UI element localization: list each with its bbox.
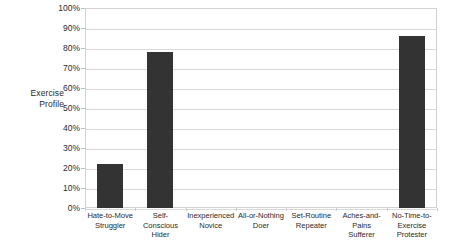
y-axis-tick-label: 50% bbox=[44, 104, 80, 113]
x-axis-category-label-line: No-Time-to- bbox=[387, 211, 437, 221]
x-axis-category-label: Hate-to-MoveStruggler bbox=[85, 211, 135, 230]
y-axis-tick-label: 40% bbox=[44, 124, 80, 133]
x-axis-category-label: InexperiencedNovice bbox=[186, 211, 236, 230]
x-axis-category-label: No-Time-to-Exercise Protester bbox=[387, 211, 437, 240]
gridline bbox=[86, 189, 436, 190]
x-axis-category-label-line: Aches-and-Pains bbox=[336, 211, 386, 230]
gridline bbox=[86, 169, 436, 170]
x-axis-category-label: All-or-NothingDoer bbox=[236, 211, 286, 230]
x-axis-category-label-line: Inexperienced bbox=[186, 211, 236, 221]
x-axis-category-label-line: All-or-Nothing bbox=[236, 211, 286, 221]
x-axis-category-label-line: Sufferer bbox=[336, 230, 386, 240]
x-axis-category-label-line: Doer bbox=[236, 221, 286, 231]
y-axis-tick-label: 60% bbox=[44, 84, 80, 93]
x-axis-category-label: Set-RoutineRepeater bbox=[286, 211, 336, 230]
plot-area bbox=[85, 8, 437, 208]
gridline bbox=[86, 29, 436, 30]
y-axis-tick-label: 30% bbox=[44, 144, 80, 153]
gridline bbox=[86, 149, 436, 150]
x-axis-category-label-line: Novice bbox=[186, 221, 236, 231]
y-axis-tick-label: 20% bbox=[44, 164, 80, 173]
x-axis-category-label-line: Repeater bbox=[286, 221, 336, 231]
gridline bbox=[86, 49, 436, 50]
y-axis-tick-label: 70% bbox=[44, 64, 80, 73]
y-axis-tick-label: 80% bbox=[44, 44, 80, 53]
x-axis-category-label-line: Hate-to-Move bbox=[85, 211, 135, 221]
x-axis-category-label: Aches-and-PainsSufferer bbox=[336, 211, 386, 240]
gridline bbox=[86, 109, 436, 110]
x-axis-category-label-line: Struggler bbox=[85, 221, 135, 231]
x-axis-category-label-line: Hider bbox=[135, 230, 185, 240]
gridline bbox=[86, 89, 436, 90]
y-axis-tick-label: 100% bbox=[44, 4, 80, 13]
x-axis-category-label: Self-ConsciousHider bbox=[135, 211, 185, 240]
gridline bbox=[86, 129, 436, 130]
gridline bbox=[86, 69, 436, 70]
x-axis-category-label-line: Set-Routine bbox=[286, 211, 336, 221]
x-axis-category-label-line: Self-Conscious bbox=[135, 211, 185, 230]
gridline bbox=[86, 209, 436, 210]
y-axis-tick-label: 10% bbox=[44, 184, 80, 193]
bar-chart: Exercise Profile 0%10%20%30%40%50%60%70%… bbox=[0, 0, 464, 244]
x-axis-labels: Hate-to-MoveStrugglerSelf-ConsciousHider… bbox=[85, 211, 437, 241]
x-axis-tick-mark bbox=[437, 208, 438, 211]
y-axis-tick-label: 90% bbox=[44, 24, 80, 33]
x-axis-category-label-line: Exercise Protester bbox=[387, 221, 437, 240]
y-axis-tick-label: 0% bbox=[44, 204, 80, 213]
